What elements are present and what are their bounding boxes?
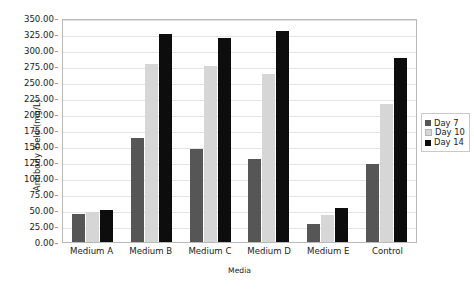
y-axis-tick-mark [55,51,58,52]
y-axis-tick-label: 250.00 [24,78,54,88]
legend-label: Day 10 [435,128,465,136]
x-axis-tick-label: Medium A [62,246,121,256]
legend-swatch-icon [425,129,432,136]
bar[interactable] [380,104,393,242]
y-axis-tick-mark [55,83,58,84]
legend-swatch-icon [425,140,431,146]
bar-chart: Antibody Yield (mg/L) 0.0025.0050.0075.0… [0,0,474,289]
bar-group [239,20,298,242]
y-axis-tick-label: 175.00 [24,126,54,136]
y-axis-tick-mark [55,195,58,196]
x-axis-tick-label: Medium B [121,246,180,256]
y-axis-tick-label: 125.00 [24,158,54,168]
bar[interactable] [218,38,231,242]
bar[interactable] [100,210,113,242]
y-axis-tick-label: 225.00 [24,94,54,104]
bar-group [181,20,240,242]
bar[interactable] [72,214,85,242]
y-axis-tick-mark [55,19,58,20]
x-axis-title: Media [62,266,417,275]
bar-group [298,20,357,242]
y-axis-tick-mark [55,99,58,100]
y-axis-tick-label: 50.00 [29,206,54,216]
bar[interactable] [307,224,320,242]
bar[interactable] [204,66,217,242]
y-axis-tick-label: 275.00 [24,62,54,72]
bar[interactable] [248,159,261,242]
x-axis-tick-label: Medium D [240,246,299,256]
y-axis-tick-mark [55,35,58,36]
bar[interactable] [394,58,407,242]
plot-area [62,19,417,243]
y-axis-tick-mark [55,211,58,212]
y-axis-tick-label: 325.00 [24,30,54,40]
legend-label: Day 14 [434,138,464,146]
bar[interactable] [190,149,203,242]
y-axis-tick-label: 300.00 [24,46,54,56]
bars-layer [63,20,416,242]
y-axis-tick-label: 75.00 [29,190,54,200]
legend-item[interactable]: Day 7 [425,119,465,127]
bar-group [357,20,416,242]
y-axis-tick-mark [55,243,58,244]
y-axis-tick-label: 0.00 [35,238,54,248]
bar[interactable] [145,64,158,242]
y-axis-tick-mark [55,163,58,164]
y-axis-tick-label: 25.00 [29,222,54,232]
y-axis-tick-label: 350.00 [24,14,54,24]
legend-item[interactable]: Day 14 [425,138,465,146]
bar[interactable] [86,212,99,242]
legend: Day 7Day 10Day 14 [421,113,470,152]
y-axis-tick-mark [55,67,58,68]
y-axis-tick-mark [55,131,58,132]
bar-group [122,20,181,242]
bar[interactable] [321,215,334,242]
bar[interactable] [366,164,379,242]
x-axis-tick-label: Control [358,246,417,256]
y-axis-tick-label: 100.00 [24,174,54,184]
bar[interactable] [131,138,144,242]
bar-group [63,20,122,242]
bar[interactable] [262,74,275,242]
bar[interactable] [159,34,172,242]
y-axis-tick-labels: 0.0025.0050.0075.00100.00125.00150.00175… [0,19,58,243]
x-axis-tick-label: Medium C [180,246,239,256]
legend-label: Day 7 [434,119,459,127]
y-axis-tick-mark [55,115,58,116]
y-axis-tick-mark [55,227,58,228]
y-axis-tick-label: 150.00 [24,142,54,152]
legend-item[interactable]: Day 10 [425,128,465,136]
bar[interactable] [335,208,348,242]
bar[interactable] [276,31,289,242]
y-axis-tick-label: 200.00 [24,110,54,120]
legend-swatch-icon [425,120,431,126]
y-axis-tick-mark [55,147,58,148]
x-axis-tick-label: Medium E [299,246,358,256]
x-axis-tick-labels: Medium AMedium BMedium CMedium DMedium E… [62,246,417,256]
y-axis-tick-mark [55,179,58,180]
